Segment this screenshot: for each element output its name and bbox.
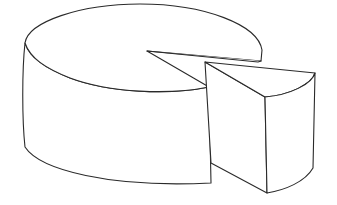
cheese-illustration — [0, 0, 337, 205]
